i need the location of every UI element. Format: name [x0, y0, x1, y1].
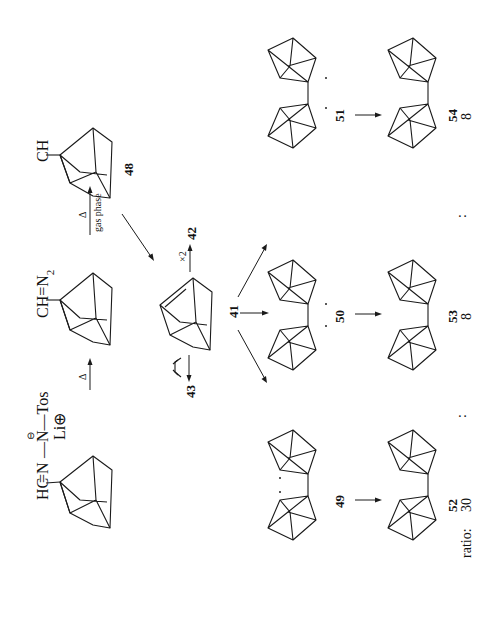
ratio-53: 8 — [459, 313, 474, 320]
svg-text:CH=N2: CH=N2 — [34, 270, 56, 318]
diradical-51 — [268, 38, 327, 148]
compound-48-number: 48 — [121, 163, 136, 177]
product-54 — [388, 38, 436, 148]
ratio-52: 30 — [459, 498, 474, 512]
noradamantyl-cage-tosylhydrazone — [60, 456, 112, 528]
arrow-49-to-52 — [355, 498, 382, 503]
diradical-49 — [268, 430, 316, 540]
noradamantyl-cage-carbene — [46, 128, 112, 198]
compound-50-number: 50 — [332, 310, 347, 323]
compound-43-number: 43 — [183, 385, 198, 399]
lithium-counterion: Li⊕ — [51, 413, 68, 440]
diradical-50 — [268, 260, 327, 370]
arrow-step2: Δ gas phase — [77, 186, 103, 235]
compound-42-number: 42 — [184, 227, 199, 240]
reaction-scheme: HC =N —N—Tos ⊖ Li⊕ Δ CH=N2 Δ gas phase C… — [0, 0, 504, 618]
formula-n2-tos: —N—Tos — [34, 392, 51, 459]
compound-41-number: 41 — [226, 305, 241, 318]
product-53 — [388, 260, 436, 370]
formula-n1: =N — [34, 462, 51, 483]
arrows-from-41 — [238, 244, 269, 383]
compound-54-number: 54 — [445, 109, 460, 123]
butadiene-icon — [175, 358, 181, 377]
arrow-51-to-54 — [355, 113, 382, 118]
diazo-subscript: 2 — [44, 270, 56, 276]
diazo-label: CH=N — [34, 275, 51, 318]
ratio-54: 8 — [459, 113, 474, 120]
heat-label-1: Δ — [77, 373, 88, 380]
gas-phase-label: gas phase — [92, 193, 103, 232]
noradamantyl-cage-diazo — [46, 273, 112, 345]
dimerize-label: ×2 — [177, 251, 188, 262]
compound-52-number: 52 — [445, 499, 460, 512]
product-52 — [388, 430, 436, 540]
ratio-label: ratio: — [459, 528, 474, 558]
heat-label-2: Δ — [77, 211, 88, 218]
arrow-trap: 43 — [173, 355, 198, 398]
arrow-50-to-53 — [355, 312, 382, 317]
arrow-48-to-41 — [122, 214, 154, 261]
ratio-separator-2: : — [454, 414, 469, 418]
compound-53-number: 53 — [445, 310, 460, 324]
ratio-separator-1: : — [454, 214, 469, 218]
compound-51-number: 51 — [332, 109, 347, 122]
negative-charge: ⊖ — [25, 432, 36, 440]
diazo-formula: CH=N2 — [34, 270, 56, 318]
noradamantene-41-cage — [160, 278, 212, 350]
arrow-dimerize: ×2 42 — [177, 227, 199, 272]
compound-49-number: 49 — [332, 495, 347, 509]
arrow-step1: Δ — [77, 358, 93, 390]
carbene-label: CH — [34, 139, 51, 162]
